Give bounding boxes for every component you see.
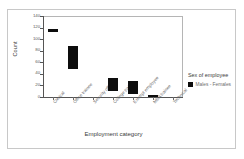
- y-axis-tick-label: 60: [22, 60, 40, 64]
- legend-items: Males - Females: [188, 82, 244, 87]
- y-axis-tick: [40, 85, 44, 86]
- legend-item[interactable]: Males - Females: [188, 82, 244, 87]
- x-axis-title: Employment category: [36, 131, 191, 138]
- y-axis-tick-label: 80: [22, 48, 40, 52]
- y-axis-tick-label: 40: [22, 71, 40, 75]
- y-axis-tick: [40, 74, 44, 75]
- legend-title: Sex of employee: [188, 72, 244, 78]
- legend-swatch: [188, 82, 193, 87]
- legend: Sex of employee Males - Females: [188, 72, 244, 87]
- y-axis-tick-label-wrap: 80: [19, 48, 40, 53]
- y-axis-tick-label-wrap: 60: [19, 60, 40, 65]
- y-axis-tick: [40, 97, 44, 98]
- y-axis-tick: [40, 28, 44, 29]
- y-axis-tick-label: 20: [22, 83, 40, 87]
- y-axis-tick-label-wrap: 40: [19, 71, 40, 76]
- y-axis-tick: [40, 62, 44, 63]
- data-mark: [108, 78, 118, 91]
- chart-screenshot: Count 020406080100120140 ClericalOffice …: [0, 0, 244, 159]
- legend-item-label: Males - Females: [196, 82, 231, 87]
- y-axis-tick-label-wrap: 120: [19, 25, 40, 30]
- y-axis-tick-label-wrap: 20: [19, 83, 40, 88]
- y-axis-title: Count: [12, 29, 18, 69]
- y-axis-tick-label-wrap: 0: [19, 95, 40, 100]
- y-axis-tick-label: 120: [22, 25, 40, 29]
- chart-card: Count 020406080100120140 ClericalOffice …: [7, 9, 236, 149]
- data-mark: [48, 29, 58, 32]
- data-mark: [128, 81, 138, 94]
- y-axis-tick: [40, 16, 44, 17]
- data-mark: [148, 95, 158, 97]
- y-axis-tick-label-wrap: 140: [19, 14, 40, 19]
- data-mark: [68, 46, 78, 69]
- y-axis-tick-label: 100: [22, 37, 40, 41]
- y-axis-tick: [40, 51, 44, 52]
- y-axis-tick: [40, 39, 44, 40]
- y-axis-tick-label: 0: [22, 95, 40, 99]
- y-axis-tick-label: 140: [22, 14, 40, 18]
- y-axis-tick-label-wrap: 100: [19, 37, 40, 42]
